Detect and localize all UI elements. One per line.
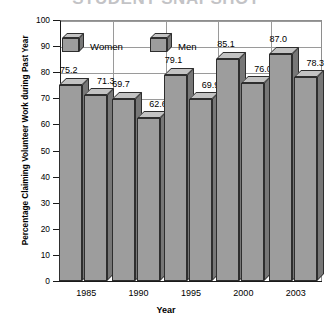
y-axis-label: 80 bbox=[24, 67, 50, 77]
bar-front bbox=[137, 118, 160, 281]
y-axis-label: 70 bbox=[24, 93, 50, 103]
bar-front bbox=[189, 99, 212, 281]
y-axis-tick bbox=[53, 281, 60, 282]
bar-men-2003 bbox=[294, 77, 317, 281]
y-axis-label: 30 bbox=[24, 198, 50, 208]
bar-value-label: 78.3 bbox=[298, 58, 332, 68]
x-axis-line bbox=[60, 281, 322, 282]
bar-front bbox=[294, 77, 317, 281]
bar-front bbox=[59, 85, 82, 281]
y-axis-tick bbox=[53, 46, 60, 47]
chart-container: STUDENT SNAPSHOT Percentage Claiming Vol… bbox=[0, 0, 332, 329]
bar-men-1990 bbox=[137, 118, 160, 281]
x-axis-label-2003: 2003 bbox=[270, 288, 322, 298]
bar-front bbox=[216, 59, 239, 281]
bar-value-label: 87.0 bbox=[261, 34, 295, 44]
legend-cube-icon bbox=[62, 38, 79, 52]
bar-women-2003 bbox=[269, 54, 292, 281]
bar-front bbox=[112, 99, 135, 281]
bar-women-2000 bbox=[216, 59, 239, 281]
bar-front bbox=[269, 54, 292, 281]
bar-value-label: 79.1 bbox=[157, 55, 191, 65]
bar-value-label: 85.1 bbox=[209, 39, 243, 49]
y-axis-label: 100 bbox=[24, 15, 50, 25]
bar-value-label: 75.2 bbox=[52, 65, 86, 75]
y-axis-label: 0 bbox=[24, 276, 50, 286]
x-axis-label-1985: 1985 bbox=[60, 288, 112, 298]
y-axis-label: 50 bbox=[24, 146, 50, 156]
bar-men-2000 bbox=[241, 83, 264, 281]
bar-men-1985 bbox=[84, 95, 107, 281]
bar-front bbox=[241, 83, 264, 281]
bar-women-1990 bbox=[112, 99, 135, 281]
bar-men-1995 bbox=[189, 99, 212, 281]
x-axis-label-1995: 1995 bbox=[165, 288, 217, 298]
y-axis-label: 60 bbox=[24, 119, 50, 129]
x-axis-label-2000: 2000 bbox=[217, 288, 269, 298]
bar-value-label: 69.7 bbox=[104, 79, 138, 89]
legend-label: Women bbox=[90, 41, 123, 52]
legend-cube-icon bbox=[150, 38, 167, 52]
gridline bbox=[61, 21, 321, 22]
y-axis-tick bbox=[53, 20, 60, 21]
x-axis-title: Year bbox=[0, 305, 332, 315]
y-axis-label: 40 bbox=[24, 172, 50, 182]
y-axis-label: 20 bbox=[24, 224, 50, 234]
legend-label: Men bbox=[178, 41, 197, 52]
bar-women-1985 bbox=[59, 85, 82, 281]
bar-front bbox=[84, 95, 107, 281]
legend-cube-front bbox=[62, 38, 79, 52]
y-axis-label: 90 bbox=[24, 41, 50, 51]
bar-side bbox=[317, 69, 324, 281]
x-axis-label-1990: 1990 bbox=[112, 288, 164, 298]
chart-title: STUDENT SNAPSHOT bbox=[0, 0, 332, 9]
y-axis-label: 10 bbox=[24, 250, 50, 260]
legend-cube-front bbox=[150, 38, 167, 52]
bar-front bbox=[164, 75, 187, 281]
bar-women-1995 bbox=[164, 75, 187, 281]
